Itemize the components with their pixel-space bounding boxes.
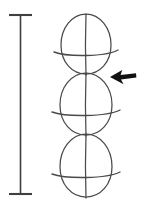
left-pointing-arrow bbox=[110, 70, 136, 84]
figure-root bbox=[0, 0, 144, 210]
ovoid-middle bbox=[52, 73, 120, 136]
ovoid-bottom bbox=[52, 134, 120, 198]
left-arrow-icon bbox=[110, 70, 136, 84]
scale-bar-group bbox=[9, 15, 32, 194]
ovoid-top-meridian bbox=[85, 14, 86, 75]
ovoid-middle-meridian bbox=[85, 73, 86, 136]
diagram-canvas bbox=[0, 0, 144, 210]
ovoid-bottom-meridian bbox=[85, 134, 86, 198]
ovoid-top bbox=[54, 14, 118, 75]
